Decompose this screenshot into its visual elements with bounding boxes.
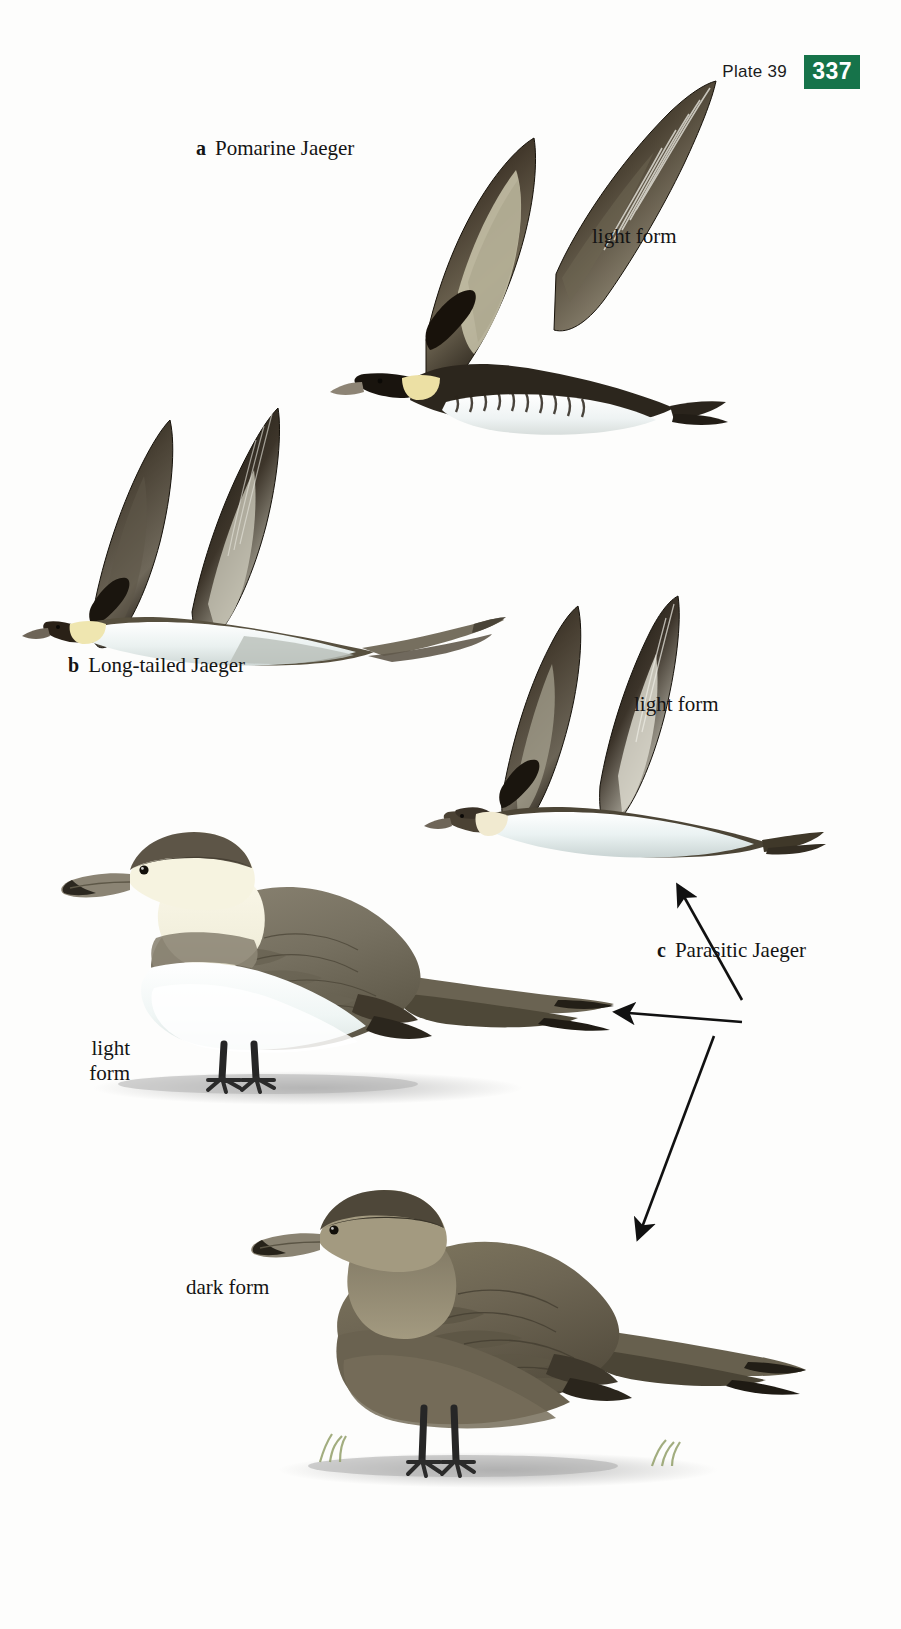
label-long-tailed-jaeger: bLong-tailed Jaeger (68, 653, 245, 678)
parasitic-jaeger-dark-standing-illustration (248, 1118, 808, 1508)
label-light-form-line2: form (56, 1061, 130, 1086)
label-text-parasitic: Parasitic Jaeger (675, 938, 806, 962)
label-text-longtailed: Long-tailed Jaeger (88, 653, 245, 677)
label-key-c: c (657, 939, 666, 961)
label-key-a: a (196, 137, 206, 159)
label-pomarine-jaeger: aPomarine Jaeger (196, 136, 354, 161)
plate-page: Plate 39 337 (0, 0, 901, 1629)
longtailed-eye (56, 625, 60, 629)
arrow-to-parasitic-light (616, 1012, 742, 1022)
page-number-badge: 337 (805, 56, 859, 88)
pomarine-eye (378, 379, 383, 384)
label-light-form-pomarine: light form (592, 224, 677, 249)
label-text-pomarine: Pomarine Jaeger (215, 136, 354, 160)
parasitic-light-eye (139, 865, 148, 874)
label-key-b: b (68, 654, 79, 676)
label-parasitic-jaeger: cParasitic Jaeger (657, 938, 806, 963)
parasitic-dark-eye (329, 1225, 338, 1234)
label-light-form-standing: light form (56, 1036, 130, 1086)
parasitic-jaeger-light-standing-illustration (58, 778, 618, 1118)
label-light-form-parasitic-flight: light form (634, 692, 719, 717)
longtailed-bill (22, 628, 50, 639)
pomarine-bill (330, 382, 364, 395)
label-dark-form: dark form (186, 1275, 269, 1300)
page-header: Plate 39 337 (722, 56, 859, 88)
label-light-form-line1: light (56, 1036, 130, 1061)
